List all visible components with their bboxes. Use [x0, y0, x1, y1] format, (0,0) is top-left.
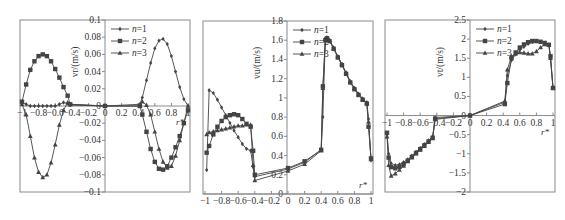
series-n3-marker	[389, 173, 394, 177]
series-n2-marker	[538, 40, 542, 44]
series-n2-marker	[251, 149, 255, 153]
series-n1	[205, 35, 373, 179]
legend-label: n=3	[314, 49, 329, 59]
series-n2-marker	[24, 82, 28, 86]
y-tick-label: 0.1	[89, 15, 101, 25]
series-n2-marker	[518, 45, 522, 49]
series-n2-marker	[28, 68, 32, 72]
x-tick-label: −0.2	[445, 118, 462, 128]
series-n2-marker	[41, 52, 45, 56]
y-tick-label: 1.5	[454, 53, 466, 63]
y-tick-label: 0.08	[84, 32, 101, 42]
x-tick-label: −0.4	[63, 108, 80, 118]
series-n1-marker	[170, 54, 173, 58]
y-tick-label: 1.4	[271, 54, 283, 64]
y-tick-label: −0.1	[84, 187, 101, 197]
series-n2-marker	[224, 115, 228, 119]
y-tick-label: 0.5	[454, 91, 466, 101]
y-axis-label: vu/(m/s)	[252, 47, 263, 79]
legend-label: n=2	[132, 36, 147, 46]
y-tick-label: −2	[456, 187, 466, 197]
legend-label: n=3	[132, 48, 147, 58]
chart-panel-axial-velocity: 00.20.40.60.811.21.41.61.8−1−0.8−0.6−0.4…	[200, 16, 374, 206]
y-tick-label: 1.2	[271, 74, 283, 84]
legend-label: n=2	[497, 36, 512, 46]
y-tick-label: 0.4	[271, 151, 283, 161]
series-n2-marker	[534, 39, 538, 43]
y-tick-label: −1.5	[449, 168, 466, 178]
y-tick-label: 1	[278, 93, 283, 103]
x-axis-label: r*	[359, 180, 368, 190]
series-n3-marker	[169, 164, 174, 168]
series-n3-marker	[45, 172, 50, 176]
series-n2-marker	[157, 167, 161, 171]
y-tick-label: 0.04	[84, 67, 101, 77]
x-axis-label: r*	[541, 127, 550, 137]
series-n2-marker	[204, 150, 208, 154]
series-n3-marker	[57, 122, 62, 126]
legend-n1-marker	[118, 27, 121, 31]
series-n3-marker	[32, 155, 37, 159]
x-tick-label: −1	[200, 196, 210, 206]
y-tick-label: 1.8	[271, 16, 283, 26]
x-tick-label: 0.6	[514, 118, 526, 128]
y-axis-label: vr/(m/s)	[70, 47, 81, 78]
y-tick-label: 1	[461, 72, 466, 82]
series-n2	[204, 36, 373, 177]
series-n2-marker	[153, 160, 157, 164]
x-tick-label: −0.2	[263, 196, 280, 206]
legend-n1-marker	[300, 28, 303, 32]
series-n3-marker	[36, 170, 41, 174]
series-n2-marker	[207, 144, 211, 148]
series-n2-marker	[148, 147, 152, 151]
y-tick-label: 1.6	[271, 35, 283, 45]
series-n2-marker	[232, 112, 236, 116]
series-n3-marker	[161, 159, 166, 163]
legend-n1-marker	[483, 27, 486, 31]
series-n2-marker	[522, 42, 526, 46]
y-tick-label: −1	[456, 149, 466, 159]
series-n2-marker	[228, 113, 232, 117]
y-tick-label: 0.06	[84, 49, 101, 59]
x-tick-label: 0	[103, 108, 108, 118]
legend: n=1n=2n=3	[111, 24, 147, 58]
series-n1-marker	[149, 61, 152, 65]
y-tick-label: −0.04	[79, 135, 101, 145]
legend-label: n=1	[132, 24, 147, 34]
series-n3-marker	[152, 129, 157, 133]
series-n2-marker	[144, 130, 148, 134]
x-tick-label: 0.8	[348, 196, 360, 206]
x-tick-label: −0.8	[395, 118, 412, 128]
x-tick-label: −0.4	[246, 196, 263, 206]
x-tick-label: 0	[286, 196, 291, 206]
x-tick-label: −0.6	[230, 196, 247, 206]
x-tick-label: −1	[382, 118, 392, 128]
series-n3-marker	[173, 153, 178, 157]
y-tick-label: −0.02	[79, 118, 101, 128]
figure: −0.1−0.08−0.06−0.04−0.0200.020.040.060.0…	[0, 0, 565, 220]
legend-n2-marker	[483, 39, 487, 43]
series-n1-marker	[205, 168, 208, 172]
x-tick-label: −0.6	[412, 118, 429, 128]
series-n2-marker	[253, 173, 257, 177]
series-n1-marker	[178, 85, 181, 89]
series-n1-marker	[62, 100, 65, 104]
series-n2-marker	[140, 112, 144, 116]
series-n3-marker	[366, 119, 371, 123]
legend-label: n=3	[497, 48, 512, 58]
series-n2-marker	[219, 119, 223, 123]
x-tick-label: 0.4	[315, 196, 327, 206]
series-n2-marker	[53, 67, 57, 71]
series-n2-marker	[530, 39, 534, 43]
series-n2-marker	[393, 166, 397, 170]
y-tick-label: 0.8	[271, 112, 283, 122]
series-n2-marker	[61, 85, 65, 89]
series-n2-marker	[45, 54, 49, 58]
chart-panel-radial-velocity: −0.1−0.08−0.06−0.04−0.0200.020.040.060.0…	[17, 15, 191, 197]
legend: n=1n=2n=3	[476, 24, 512, 58]
series-n1-marker	[141, 95, 144, 99]
x-tick-label: 0.2	[481, 118, 493, 128]
series-n3-marker	[53, 142, 58, 146]
series-n3-marker	[157, 146, 162, 150]
x-tick-label: 0.4	[497, 118, 509, 128]
